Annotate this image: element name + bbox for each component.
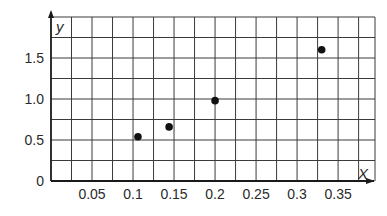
y-axis-label: y: [55, 18, 65, 35]
x-axis-label: X: [357, 165, 369, 182]
y-tick-label: 1.0: [25, 91, 45, 107]
x-tick-labels: 0.050.10.150.20.250.30.35: [78, 186, 352, 202]
y-tick-label: 0: [36, 173, 44, 189]
x-tick-label: 0.3: [287, 186, 307, 202]
axes: [48, 10, 375, 184]
y-tick-label: 0.5: [25, 132, 45, 148]
data-point: [211, 97, 219, 105]
x-tick-label: 0.15: [160, 186, 187, 202]
data-point: [134, 133, 142, 141]
y-tick-label: 1.5: [25, 50, 45, 66]
x-tick-label: 0.05: [78, 186, 105, 202]
scatter-chart: 0.050.10.150.20.250.30.35 00.51.01.5 y X: [0, 0, 387, 216]
data-point: [318, 46, 326, 54]
x-tick-label: 0.25: [242, 186, 269, 202]
x-tick-label: 0.2: [205, 186, 225, 202]
y-tick-labels: 00.51.01.5: [25, 50, 45, 189]
data-point: [165, 123, 173, 131]
x-tick-label: 0.35: [324, 186, 351, 202]
x-tick-label: 0.1: [123, 186, 143, 202]
y-axis-arrow-icon: [48, 10, 54, 18]
